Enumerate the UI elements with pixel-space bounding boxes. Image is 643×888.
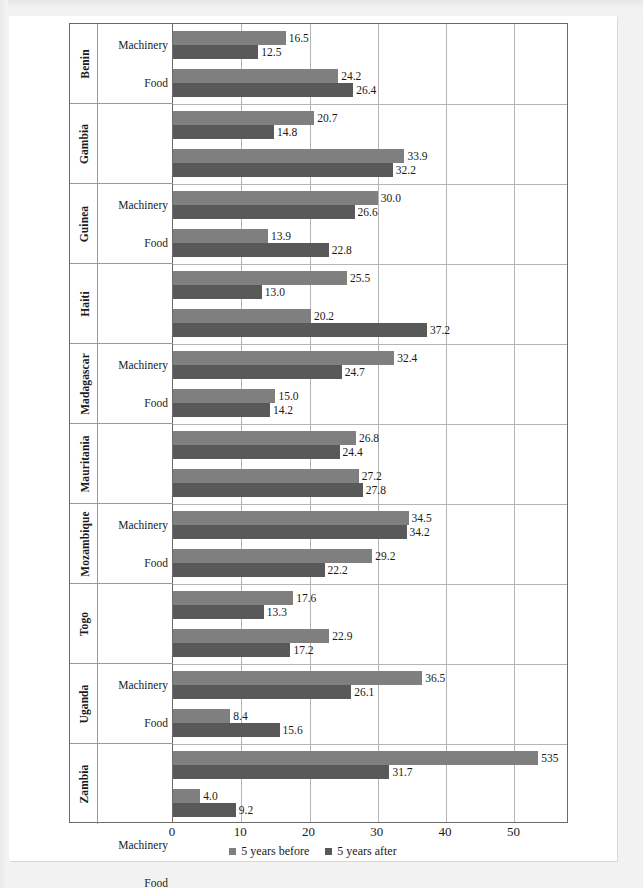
bar-mozambique-food-after [173, 563, 325, 577]
group-separator [173, 664, 567, 665]
bar-benin-food-before [173, 69, 338, 83]
country-block: UgandaMachineryFood [70, 664, 173, 744]
bar-value-label: 36.5 [422, 671, 445, 685]
bar-benin-machinery-before [173, 31, 286, 45]
x-tick-label-0: 0 [169, 824, 176, 840]
bar-benin-food-after [173, 83, 353, 97]
bar-value-label: 27.2 [359, 469, 382, 483]
bar-uganda-machinery-before [173, 671, 422, 685]
x-tick-label-20: 20 [302, 824, 315, 840]
bar-value-label: 22.8 [329, 243, 352, 257]
gridline-50 [514, 24, 515, 822]
chart-legend: 5 years before5 years after [9, 844, 617, 859]
bar-value-label: 26.6 [355, 205, 378, 219]
country-block: ZambiaMachineryFood [70, 744, 173, 824]
bar-gambia-machinery-after [173, 125, 274, 139]
bar-madagascar-food-before [173, 389, 275, 403]
country-block: GambiaMachineryFood [70, 104, 173, 184]
bar-zambia-food-before [173, 789, 200, 803]
bar-value-label: 31.7 [389, 765, 412, 779]
x-tick-label-50: 50 [507, 824, 520, 840]
bar-value-label: 15.0 [275, 389, 298, 403]
bar-togo-food-before [173, 629, 329, 643]
bar-value-label: 15.6 [280, 723, 303, 737]
bar-value-label: 14.2 [270, 403, 293, 417]
bar-togo-machinery-after [173, 605, 264, 619]
country-block: MozambiqueMachineryFood [70, 504, 173, 584]
gridline-10 [241, 24, 242, 822]
bar-mauritania-food-before [173, 469, 359, 483]
bar-uganda-machinery-after [173, 685, 351, 699]
legend-label: 5 years after [337, 844, 396, 859]
group-separator [173, 264, 567, 265]
bar-benin-machinery-after [173, 45, 258, 59]
bar-zambia-machinery-before [173, 751, 538, 765]
country-block: GuineaMachineryFood [70, 184, 173, 264]
bar-zambia-machinery-after [173, 765, 389, 779]
bar-value-label: 4.0 [200, 789, 217, 803]
country-block: MadagascarMachineryFood [70, 344, 173, 424]
cut-off-source-note [6, 879, 606, 888]
gridline-20 [310, 24, 311, 822]
bar-value-label: 30.0 [378, 191, 401, 205]
bar-guinea-machinery-before [173, 191, 378, 205]
bar-value-label: 20.7 [314, 111, 337, 125]
group-separator [173, 584, 567, 585]
country-label: Benin [72, 24, 98, 103]
x-tick-label-30: 30 [370, 824, 383, 840]
bar-gambia-food-before [173, 149, 404, 163]
bar-guinea-food-before [173, 229, 268, 243]
bar-value-label: 16.5 [286, 31, 309, 45]
bar-haiti-machinery-before [173, 271, 347, 285]
legend-item-after[interactable]: 5 years after [325, 844, 396, 859]
bar-value-label: 22.9 [329, 629, 352, 643]
country-label: Haiti [72, 264, 98, 343]
bar-value-label: 17.6 [293, 591, 316, 605]
bar-value-label: 535 [538, 751, 558, 765]
bar-haiti-food-before [173, 309, 311, 323]
plot-frame: BeninMachineryFoodGambiaMachineryFoodGui… [69, 23, 568, 823]
bar-mauritania-food-after [173, 483, 363, 497]
bar-gambia-machinery-before [173, 111, 314, 125]
group-separator [173, 744, 567, 745]
bar-mauritania-machinery-before [173, 431, 356, 445]
bar-value-label: 29.2 [372, 549, 395, 563]
bar-madagascar-machinery-after [173, 365, 342, 379]
group-separator [173, 184, 567, 185]
category-label-food: Food [98, 77, 168, 89]
category-label-column: BeninMachineryFoodGambiaMachineryFoodGui… [70, 24, 173, 822]
bar-value-label: 17.2 [290, 643, 313, 657]
legend-item-before[interactable]: 5 years before [229, 844, 309, 859]
gridline-30 [378, 24, 379, 822]
bar-madagascar-machinery-before [173, 351, 394, 365]
group-separator [173, 344, 567, 345]
x-tick-label-10: 10 [234, 824, 247, 840]
bar-value-label: 26.4 [353, 83, 376, 97]
country-label: Madagascar [72, 344, 98, 423]
bar-value-label: 22.2 [325, 563, 348, 577]
bar-uganda-food-before [173, 709, 230, 723]
country-block: BeninMachineryFood [70, 24, 173, 104]
country-label: Togo [72, 584, 98, 663]
bar-togo-machinery-before [173, 591, 293, 605]
country-label: Mozambique [72, 504, 98, 583]
bar-mauritania-machinery-after [173, 445, 340, 459]
bar-value-label: 13.9 [268, 229, 291, 243]
bar-value-label: 9.2 [236, 803, 253, 817]
bar-guinea-food-after [173, 243, 329, 257]
cut-off-figure-caption [0, 0, 643, 4]
bar-value-label: 13.0 [262, 285, 285, 299]
country-block: MauritaniaMachineryFood [70, 424, 173, 504]
page-background-left-band [0, 0, 8, 888]
country-block: HaitiMachineryFood [70, 264, 173, 344]
x-tick-label-40: 40 [439, 824, 452, 840]
bar-value-label: 24.2 [338, 69, 361, 83]
category-label-machinery: Machinery [98, 39, 168, 51]
country-block: TogoMachineryFood [70, 584, 173, 664]
bar-value-label: 12.5 [258, 45, 281, 59]
bar-value-label: 20.2 [311, 309, 334, 323]
bar-value-label: 14.8 [274, 125, 297, 139]
bar-value-label: 24.4 [340, 445, 363, 459]
bar-value-label: 33.9 [404, 149, 427, 163]
bar-togo-food-after [173, 643, 290, 657]
